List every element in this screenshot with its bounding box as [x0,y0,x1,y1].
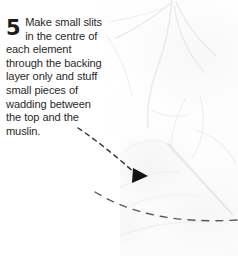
step-number: 5 [6,17,20,40]
arrow-head-icon [132,168,148,183]
caption-block: 5 Make small slits in the centre of each… [6,16,102,138]
dashed-guide-curve [95,192,238,221]
caption-text: Make small slits in the centre of each e… [6,16,102,138]
step-panel: 5 Make small slits in the centre of each… [0,0,238,256]
